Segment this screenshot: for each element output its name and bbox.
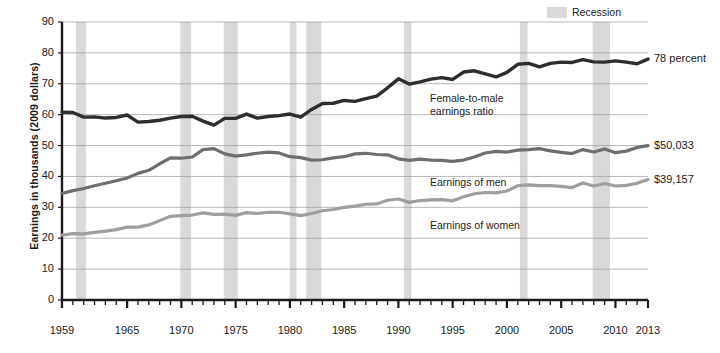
x-tick-label: 1990 [378, 324, 418, 336]
chart-root: Earnings in thousands (2009 dollars) Rec… [0, 0, 720, 353]
y-tick-label: 20 [28, 231, 54, 243]
x-axis-ticks [62, 300, 648, 308]
y-tick-label: 90 [28, 15, 54, 27]
y-tick-label: 50 [28, 139, 54, 151]
x-tick-label: 2005 [541, 324, 581, 336]
y-tick-label: 70 [28, 77, 54, 89]
series-end-label: $39,157 [654, 173, 694, 185]
recession-band [290, 22, 297, 300]
series-annotation-line: Earnings of women [430, 219, 520, 232]
x-tick-label: 1995 [433, 324, 473, 336]
x-tick-label: 1970 [161, 324, 201, 336]
recession-band [180, 22, 191, 300]
y-tick-label: 0 [28, 293, 54, 305]
chart-canvas [0, 0, 720, 353]
series-annotation: Female-to-maleearnings ratio [430, 92, 504, 117]
x-tick-label: 2013 [628, 324, 668, 336]
series-annotation-line: Female-to-male [430, 92, 504, 105]
series-annotation: Earnings of men [430, 176, 506, 189]
y-tick-label: 80 [28, 46, 54, 58]
y-tick-label: 40 [28, 169, 54, 181]
y-tick-label: 60 [28, 108, 54, 120]
x-tick-label: 1959 [42, 324, 82, 336]
x-tick-label: 1980 [270, 324, 310, 336]
legend-recession-swatch [547, 7, 567, 18]
legend-recession-label: Recession [572, 6, 621, 18]
series-line [62, 59, 648, 125]
series-end-label: 78 percent [654, 52, 706, 64]
series-annotation-line: Earnings of men [430, 176, 506, 189]
y-tick-label: 10 [28, 262, 54, 274]
series-annotation-line: earnings ratio [430, 105, 504, 118]
series-end-label: $50,033 [654, 139, 694, 151]
gridlines [62, 22, 648, 269]
recession-band [76, 22, 86, 300]
x-tick-label: 2000 [487, 324, 527, 336]
series-annotation: Earnings of women [430, 219, 520, 232]
recession-band [224, 22, 238, 300]
y-tick-label: 30 [28, 200, 54, 212]
x-tick-label: 1975 [216, 324, 256, 336]
x-tick-label: 1965 [107, 324, 147, 336]
x-tick-label: 1985 [324, 324, 364, 336]
